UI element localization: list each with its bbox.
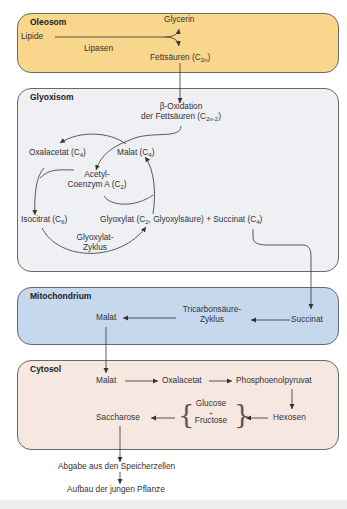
bottom-strip (0, 500, 347, 509)
label-glyoxylat-succinat: Glyoxylat (C2, Glyoxylsäure) + Succinat … (100, 215, 262, 225)
label-glyoxylat-zyklus: Glyoxylat- Zyklus (72, 233, 118, 252)
label-isocitrat: Isocitrat (C6) (21, 215, 67, 225)
label-abgabe: Abgabe aus den Speicherzellen (58, 462, 175, 472)
diagram-canvas: Oleosom Glyoxisom Mitochondrium Cytosol (0, 0, 347, 509)
label-hexosen: Hexosen (273, 413, 306, 423)
label-oxalacetat-glyoxisom: Oxalacetat (C4) (29, 148, 86, 158)
label-malat-mito: Malat (96, 313, 116, 323)
label-succinat-mito: Succinat (291, 315, 323, 325)
label-oxalacetat-cytosol: Oxalacetat (162, 376, 202, 386)
label-aufbau: Aufbau der jungen Pflanze (67, 485, 165, 495)
oleosom-title: Oleosom (30, 17, 66, 27)
label-beta-oxidation: β-Oxidation der Fettsäuren (C2n-2) (136, 102, 226, 121)
label-phosphoenolpyruvat: Phosphoenolpyruvat (236, 376, 312, 386)
label-fettsaeuren: Fettsäuren (C2n) (150, 53, 210, 63)
label-saccharose: Saccharose (96, 413, 140, 423)
mitochondrium-title: Mitochondrium (30, 291, 91, 301)
glyoxisom-title: Glyoxisom (30, 92, 73, 102)
label-acetyl-coa: Acetyl- Coenzym A (C2) (66, 170, 128, 189)
right-brace: } (234, 402, 251, 428)
label-tca-cycle: Tricarbonsäure- Zyklus (176, 305, 248, 324)
label-lipide: Lipide (21, 32, 43, 42)
label-glycerin: Glycerin (164, 15, 194, 25)
cytosol-title: Cytosol (30, 364, 61, 374)
label-malat-cytosol: Malat (96, 376, 116, 386)
label-lipasen: Lipasen (84, 44, 113, 54)
label-glucose-fructose: Glucose + Fructose (188, 399, 234, 425)
label-malat-glyoxisom: Malat (C4) (117, 148, 154, 158)
